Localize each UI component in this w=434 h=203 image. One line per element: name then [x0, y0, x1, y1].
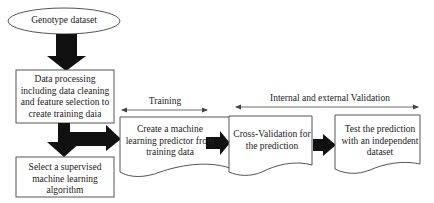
predictor-node-label: Create a machine learning predictor from… [124, 124, 216, 159]
genotype-node-label: Genotype dataset [8, 15, 120, 27]
validation-span-label: Internal and external Validation [270, 93, 390, 105]
training-span-label: Training [140, 96, 190, 108]
validation-span-left-arrowhead [235, 105, 241, 110]
arrow-crossval-to-test [313, 134, 336, 156]
crossval-node-label: Cross-Validation for the prediction [232, 129, 312, 152]
test-node-label: Test the prediction with an independent … [340, 124, 420, 159]
select-node-label: Select a supervised machine learning alg… [22, 162, 108, 197]
processing-node-label: Data processing including data cleaning … [18, 74, 112, 120]
training-span-right-arrowhead [202, 108, 208, 113]
validation-span-right-arrowhead [413, 105, 419, 110]
training-span-left-arrowhead [121, 108, 127, 113]
arrow-genotype-to-processing [47, 34, 86, 71]
